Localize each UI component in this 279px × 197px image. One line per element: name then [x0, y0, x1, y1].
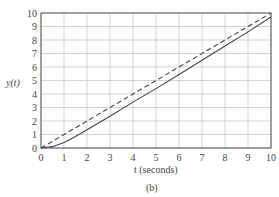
x-tick-label: 3 — [108, 152, 113, 163]
x-tick-label: 1 — [62, 152, 67, 163]
x-axis-label: t (seconds) — [134, 164, 178, 175]
x-tick-label: 2 — [85, 152, 90, 163]
y-tick-label: 6 — [32, 62, 37, 73]
y-tick-label: 3 — [32, 102, 37, 113]
y-tick-label: 10 — [27, 8, 37, 19]
y-axis-label: y(t) — [6, 77, 20, 88]
x-tick-label: 4 — [131, 152, 136, 163]
x-tick-label: 8 — [223, 152, 228, 163]
x-tick-label: 10 — [266, 152, 276, 163]
y-tick-label: 1 — [32, 129, 37, 140]
y-tick-label: 5 — [32, 75, 37, 86]
y-tick-label: 0 — [32, 143, 37, 154]
x-tick-label: 9 — [246, 152, 251, 163]
x-tick-label: 7 — [200, 152, 205, 163]
y-tick-label: 9 — [32, 21, 37, 32]
x-tick-label: 6 — [177, 152, 182, 163]
y-tick-label: 8 — [32, 35, 37, 46]
y-tick-label: 4 — [32, 89, 37, 100]
x-tick-label: 0 — [39, 152, 44, 163]
y-tick-label: 2 — [32, 116, 37, 127]
x-tick-label: 5 — [154, 152, 159, 163]
y-tick-label: 7 — [32, 48, 37, 59]
figure-caption: (b) — [146, 182, 158, 193]
